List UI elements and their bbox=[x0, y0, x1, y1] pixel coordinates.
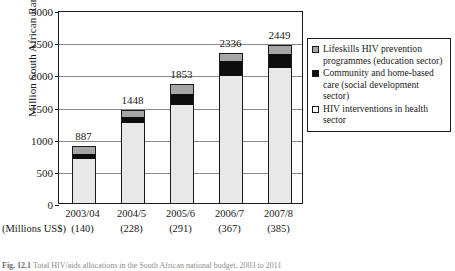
bar-segment bbox=[72, 146, 96, 154]
legend-label-education: Lifeskills HIV prevention programmes (ed… bbox=[323, 43, 447, 66]
bar-2005-6[interactable]: 1853 bbox=[170, 84, 194, 203]
bar-2006-7[interactable]: 2336 bbox=[219, 53, 243, 203]
y-axis-tick-mark bbox=[55, 205, 59, 206]
bar-2004-5[interactable]: 1448 bbox=[121, 110, 145, 203]
bar-total-label: 2336 bbox=[220, 37, 242, 49]
bar-2007-8[interactable]: 2449 bbox=[268, 45, 292, 203]
bar-segment bbox=[170, 105, 194, 203]
legend-swatch-education-icon bbox=[312, 46, 319, 53]
bar-segment bbox=[219, 76, 243, 203]
bar-segment bbox=[121, 110, 145, 117]
legend-swatch-health-icon bbox=[312, 106, 319, 113]
bar-total-label: 887 bbox=[75, 130, 92, 142]
x-axis-tick-label: 2004/5 bbox=[117, 208, 146, 219]
figure-caption-number: Fig. 12.1 bbox=[2, 261, 31, 270]
bar-2003-04[interactable]: 887 bbox=[72, 146, 96, 203]
x-axis-tick-label: 2007/8 bbox=[264, 208, 293, 219]
y-axis-tick-label: 1500 bbox=[31, 103, 53, 115]
chart-legend: Lifeskills HIV prevention programmes (ed… bbox=[307, 38, 451, 132]
legend-item: Lifeskills HIV prevention programmes (ed… bbox=[312, 43, 447, 66]
x-axis-tick-label: 2005/6 bbox=[166, 208, 195, 219]
figure-caption-text: Total HIV/aids allocations in the South … bbox=[33, 261, 281, 270]
y-axis-tick-label: 0 bbox=[48, 199, 54, 211]
bar-segment bbox=[170, 94, 194, 105]
chart-figure: Million South African Rand 0500100015002… bbox=[0, 0, 455, 271]
bar-segment bbox=[268, 45, 292, 53]
y-axis-tick-label: 3000 bbox=[31, 6, 53, 18]
x-axis-tick-label: 2003/04 bbox=[65, 208, 99, 219]
usd-axis-value: (385) bbox=[267, 223, 290, 234]
bar-total-label: 1853 bbox=[171, 68, 193, 80]
bar-group: 8871448185323362449 bbox=[59, 12, 302, 203]
x-axis-tick-label: 2006/7 bbox=[215, 208, 244, 219]
bar-segment bbox=[268, 54, 292, 69]
usd-axis-value: (140) bbox=[71, 223, 94, 234]
bar-segment bbox=[219, 53, 243, 61]
legend-swatch-social-development-icon bbox=[312, 70, 319, 77]
y-axis-tick-label: 1000 bbox=[31, 135, 53, 147]
legend-label-social-development: Community and home-based care (social de… bbox=[323, 67, 447, 102]
figure-caption: Fig. 12.1 Total HIV/aids allocations in … bbox=[2, 261, 452, 271]
bar-segment bbox=[72, 159, 96, 203]
y-axis-tick-label: 2000 bbox=[31, 70, 53, 82]
usd-axis-caption: (Millions US$) bbox=[2, 223, 66, 234]
bar-segment bbox=[219, 61, 243, 76]
plot-area: 050010001500200025003000 887144818532336… bbox=[58, 11, 303, 204]
bar-segment bbox=[170, 84, 194, 94]
usd-axis-value: (228) bbox=[120, 223, 143, 234]
legend-item: HIV interventions in health sector bbox=[312, 103, 447, 126]
y-axis-tick-label: 2500 bbox=[31, 38, 53, 50]
y-axis-tick-label: 500 bbox=[37, 167, 54, 179]
bar-total-label: 1448 bbox=[122, 94, 144, 106]
legend-item: Community and home-based care (social de… bbox=[312, 67, 447, 102]
bar-segment bbox=[121, 123, 145, 203]
bar-segment bbox=[268, 68, 292, 203]
usd-axis-value: (367) bbox=[218, 223, 241, 234]
legend-label-health: HIV interventions in health sector bbox=[323, 103, 447, 126]
usd-axis-value: (291) bbox=[169, 223, 192, 234]
bar-total-label: 2449 bbox=[269, 29, 291, 41]
